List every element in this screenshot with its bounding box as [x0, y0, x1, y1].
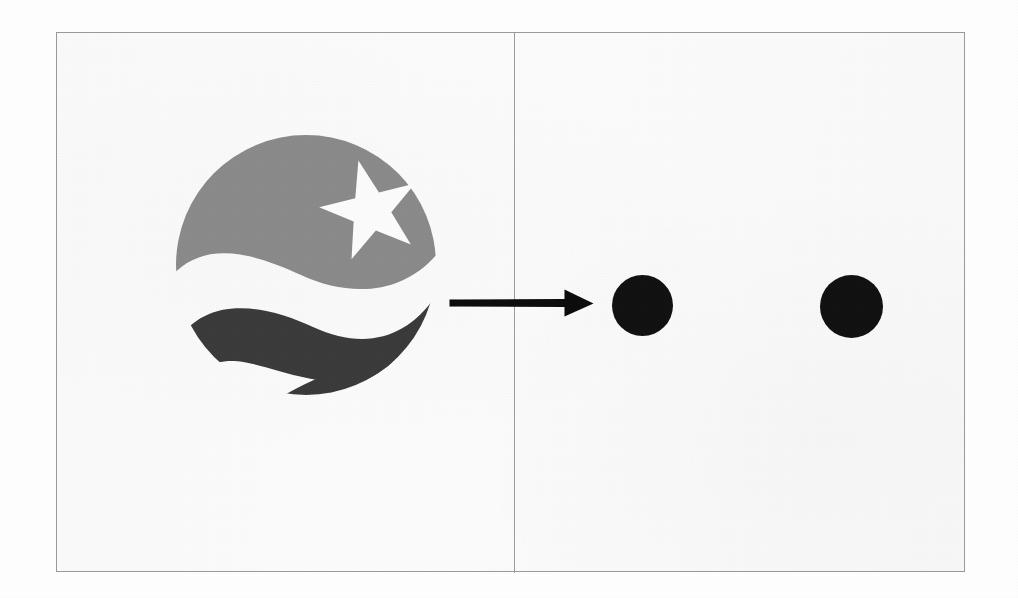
rightward-transform-arrow: [445, 283, 598, 323]
agency-emblem: [161, 123, 451, 423]
scanned-figure-page: [0, 0, 1018, 598]
output-dot: [820, 275, 883, 338]
emblem-dome-shape: [164, 123, 443, 289]
figure-frame: [56, 32, 965, 572]
output-dot: [612, 275, 673, 336]
